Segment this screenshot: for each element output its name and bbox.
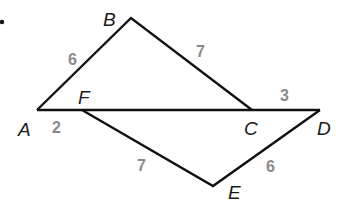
length-cd: 3	[280, 87, 289, 104]
length-ab: 6	[68, 51, 77, 68]
point-label-c: C	[244, 118, 258, 139]
triangles-diagram: B F A C D E 6 7 2 3 7 6	[0, 0, 345, 218]
triangle-def-sides	[82, 110, 320, 186]
length-fe: 7	[137, 157, 146, 174]
length-ed: 6	[266, 158, 275, 175]
point-label-b: B	[103, 9, 116, 30]
length-bc: 7	[196, 43, 205, 60]
bullet-marker	[0, 20, 4, 24]
length-af: 2	[52, 119, 61, 136]
point-label-a: A	[17, 119, 31, 140]
geometry-figure: B F A C D E 6 7 2 3 7 6	[0, 0, 345, 218]
point-label-f: F	[78, 87, 91, 108]
point-label-e: E	[228, 182, 241, 203]
point-label-d: D	[317, 118, 331, 139]
